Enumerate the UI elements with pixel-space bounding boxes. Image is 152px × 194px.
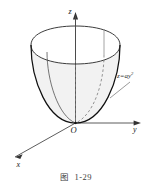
origin-point bbox=[74, 122, 76, 124]
origin-label: O bbox=[71, 125, 77, 135]
y-axis: y bbox=[76, 120, 142, 134]
y-axis-label: y bbox=[132, 125, 137, 134]
figure-caption: 图 1-29 bbox=[0, 170, 152, 182]
x-axis: x bbox=[15, 123, 76, 169]
equation-exponent: 2 bbox=[131, 71, 134, 76]
svg-text:z=ay2: z=ay2 bbox=[116, 71, 134, 80]
paraboloid-figure-diagram: x y z O bbox=[0, 0, 152, 194]
z-axis-label: z bbox=[68, 7, 73, 16]
equation-base: z=ay bbox=[116, 72, 132, 80]
surface-equation-label: z=ay2 bbox=[116, 71, 134, 80]
x-axis-label: x bbox=[16, 160, 21, 169]
figure-container: x y z O bbox=[0, 0, 152, 194]
